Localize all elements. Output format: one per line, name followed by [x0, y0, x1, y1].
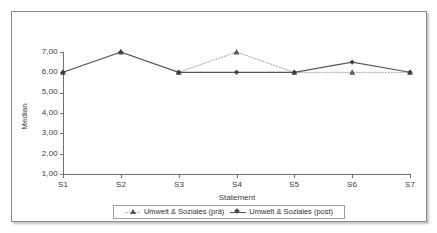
legend-label-pre: Umwelt & Soziales (prä) [144, 208, 224, 216]
datapoint-post-s6 [350, 60, 355, 65]
chart-plot-area: Median 7,00 6,00 5,00 4,00 3,00 2,00 1,0… [0, 0, 437, 233]
legend-entry-post: Umwelt & Soziales (post) [230, 208, 333, 217]
legend-marker-diamond-solid-icon [230, 208, 246, 217]
chart-legend: Umwelt & Soziales (prä) Umwelt & Soziale… [113, 205, 345, 219]
chart-screenshot: Median 7,00 6,00 5,00 4,00 3,00 2,00 1,0… [0, 0, 437, 233]
datapoint-post-s4 [234, 70, 239, 75]
datapoint-pre-s4 [234, 49, 239, 54]
legend-label-post: Umwelt & Soziales (post) [249, 208, 333, 216]
legend-marker-triangle-dotted-icon [125, 208, 141, 217]
legend-entry-pre: Umwelt & Soziales (prä) [125, 208, 224, 217]
series-layer [0, 0, 437, 233]
